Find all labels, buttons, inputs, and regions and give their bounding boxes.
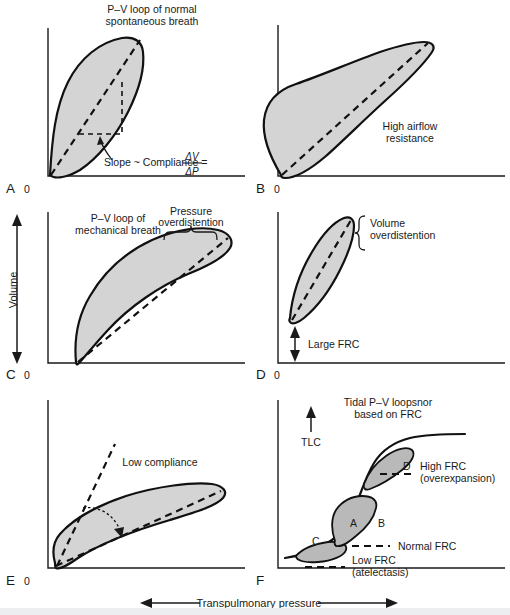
panel-d-bracket-line1: Volume [370,217,405,229]
panel-f-normal-frc-label: Normal FRC [398,540,457,552]
panel-f-letter: F [256,573,264,588]
y-axis-label: Volume [7,272,19,309]
panel-f-loop-label-c: C [312,535,320,547]
panel-b-title-line2: resistance [386,132,434,144]
panel-a-fraction-denominator: ΔP [184,166,199,177]
panel-d-letter: D [256,367,266,382]
panel-a-title-line1: P–V loop of normal [107,3,196,15]
panel-f-title-line1: Tidal P–V loopsnor [344,396,433,408]
panel-a-letter: A [6,181,15,196]
panel-a-origin: 0 [24,183,30,195]
panel-f-high-frc-line2: (overexpansion) [420,472,495,484]
panel-f-tlc-label: TLC [301,436,321,448]
panel-a-title-line2: spontaneous breath [106,15,199,27]
panel-e-origin: 0 [24,575,30,587]
panel-b-origin: 0 [274,183,280,195]
panel-d-arrow-label: Large FRC [308,338,360,350]
panel-c-origin: 0 [24,369,30,381]
panel-a-fraction-numerator: ΔV [184,151,200,162]
panel-c-bracket-line2: overdistention [158,216,224,228]
panel-f-title-line2: based on FRC [354,408,422,420]
panel-c-letter: C [6,367,16,382]
bottom-strip [0,608,510,615]
panel-f-loop-label-a: A [350,517,357,529]
panel-f-low-frc-line1: Low FRC [352,554,396,566]
panel-c-title-line2: mechanical breath [75,224,161,236]
panel-c-title-line1: P–V loop of [91,212,145,224]
panel-d-origin: 0 [274,369,280,381]
pv-loop-figure: P–V loop of normal spontaneous breath Sl… [0,0,510,615]
panel-f-loop-label-d: D [403,460,411,472]
panel-b-letter: B [256,181,265,196]
panel-f-high-frc-line1: High FRC [420,460,467,472]
panel-f-low-frc-line2: (atelectasis) [352,566,409,578]
panel-e-annotation: Low compliance [122,456,197,468]
panel-e-letter: E [6,573,15,588]
panel-f-loop-label-b: B [378,517,385,529]
panel-b-title-line1: High airflow [383,120,438,132]
panel-d-bracket-line2: overdistention [370,229,436,241]
